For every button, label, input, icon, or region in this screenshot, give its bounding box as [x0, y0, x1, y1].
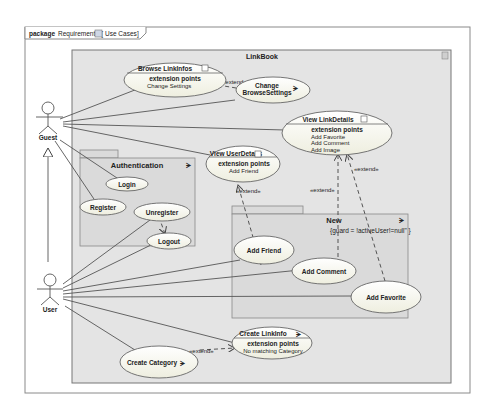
svg-text:Add Image: Add Image	[311, 147, 341, 153]
package-name-authentication: Authentication	[111, 161, 164, 170]
component-icon	[442, 52, 448, 59]
svg-text:View UserDetails: View UserDetails	[210, 150, 263, 157]
frame-keyword: package	[29, 30, 55, 38]
diagram-link-icon	[202, 65, 208, 71]
use-case-diagram-icon	[95, 30, 102, 37]
svg-text:extension points: extension points	[311, 126, 363, 134]
svg-text:extension points: extension points	[218, 160, 270, 168]
svg-text:extension points: extension points	[149, 75, 201, 83]
diagram-label: Use Cases	[105, 30, 138, 37]
svg-text:Create Category: Create Category	[127, 359, 178, 367]
use-case-add-friend[interactable]: Add Friend	[234, 236, 294, 264]
svg-text:Add Friend: Add Friend	[247, 247, 281, 254]
actor-label-guest: Guest	[39, 134, 58, 141]
use-case-login[interactable]: Login	[106, 177, 148, 191]
svg-text:No matching Category: No matching Category	[243, 348, 303, 354]
svg-text:View LinkDetails: View LinkDetails	[302, 116, 354, 123]
diagram-link-icon	[361, 116, 367, 122]
use-case-unregister[interactable]: Unregister	[134, 203, 190, 221]
use-case-register[interactable]: Register	[80, 199, 126, 215]
frame-name: Requirements	[58, 30, 99, 38]
svg-text:«extend»: «extend»	[310, 187, 335, 193]
use-case-create-linkinfo[interactable]: Create LinkInfo ᗒ extension points No ma…	[232, 327, 312, 359]
svg-text:extension points: extension points	[247, 340, 299, 348]
svg-text:]: ]	[137, 30, 139, 38]
system-name: LinkBook	[246, 53, 278, 60]
actor-label-user: User	[43, 306, 58, 313]
svg-text:Add Comment: Add Comment	[302, 268, 347, 275]
svg-text:Add Favorite: Add Favorite	[366, 294, 406, 301]
svg-text:Change Settings: Change Settings	[147, 83, 191, 89]
svg-text:Add Comment: Add Comment	[311, 140, 350, 146]
svg-text:packageRequirements [: packageRequirements [	[29, 30, 103, 38]
use-case-diagram: packageRequirements [ Use Cases ] LinkBo…	[0, 0, 497, 414]
use-case-create-category[interactable]: Create Category ᗒ	[120, 346, 198, 378]
svg-text:«extend»: «extend»	[189, 348, 214, 354]
svg-text:Create LinkInfo: Create LinkInfo	[239, 330, 286, 337]
svg-text:Logout: Logout	[158, 238, 181, 246]
use-case-change-browse-settings[interactable]: Change BrowseSettings ᗒ	[236, 77, 310, 103]
svg-text:«extend»: «extend»	[236, 188, 261, 194]
use-case-add-comment[interactable]: Add Comment	[292, 258, 356, 284]
svg-text:BrowseSettings: BrowseSettings	[242, 89, 292, 97]
use-case-view-userdetails[interactable]: View UserDetails extension points Add Fr…	[206, 146, 280, 182]
use-case-add-favorite[interactable]: Add Favorite	[351, 281, 421, 313]
diagram-link-icon	[255, 151, 261, 157]
svg-text:Login: Login	[118, 181, 136, 189]
svg-text:Add Friend: Add Friend	[229, 168, 258, 174]
svg-text:«extend»: «extend»	[354, 166, 379, 172]
use-case-view-linkdetails[interactable]: View LinkDetails extension points Add Fa…	[282, 111, 392, 155]
use-case-browse-linkinfos[interactable]: Browse LinkInfos extension points Change…	[124, 63, 226, 97]
svg-text:Browse LinkInfos: Browse LinkInfos	[138, 65, 193, 72]
use-case-logout[interactable]: Logout	[147, 233, 191, 249]
svg-text:Register: Register	[90, 204, 116, 212]
package-name-new: New	[326, 216, 342, 225]
svg-text:Unregister: Unregister	[146, 209, 179, 217]
